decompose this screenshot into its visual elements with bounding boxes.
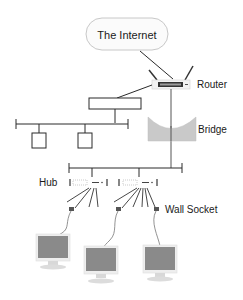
wall-socket-icon-3 [154, 207, 159, 211]
lan-node-1 [32, 133, 46, 148]
hub-icon-2 [119, 179, 157, 186]
bridge-icon [148, 117, 196, 141]
wall-socket-icon-1 [69, 207, 74, 211]
computer-monitor-3 [143, 245, 177, 282]
internet-router-link [140, 51, 173, 79]
hub2-ports [114, 188, 155, 208]
computer-monitor-1 [36, 234, 70, 270]
router-label: Router [197, 79, 228, 90]
network-diagram: The Internet Router Bridge Hub [0, 0, 243, 300]
lan-bus [16, 119, 128, 133]
wall-socket-label: Wall Socket [165, 204, 218, 215]
internet-label: The Internet [97, 29, 156, 41]
hub-icon-1 [70, 179, 107, 186]
wall-socket-icon-2 [116, 207, 121, 211]
internet-cloud: The Internet [86, 18, 168, 50]
router-lan-link [117, 85, 152, 98]
lan-node-2 [78, 133, 92, 148]
lan-switch-box [89, 98, 141, 109]
hub1-ports [67, 188, 98, 208]
bridge-label: Bridge [198, 124, 227, 135]
cable-3 [154, 211, 160, 250]
hub-label: Hub [39, 177, 58, 188]
computer-monitor-2 [84, 246, 118, 284]
hub-bus [69, 163, 182, 177]
